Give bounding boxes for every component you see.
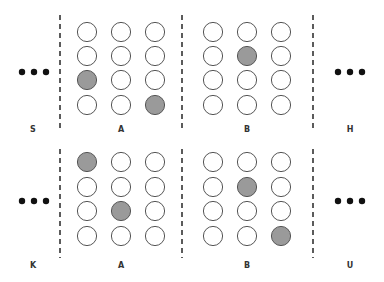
- bead-empty: [203, 70, 222, 89]
- bead-empty: [145, 201, 164, 220]
- bead-empty: [203, 152, 222, 171]
- bead-empty: [271, 46, 290, 65]
- bead-empty: [77, 177, 96, 196]
- bead-empty: [237, 22, 256, 41]
- label-group-a: A: [118, 125, 125, 134]
- bead-filled: [77, 152, 96, 171]
- bead-empty: [77, 201, 96, 220]
- bead-empty: [237, 152, 256, 171]
- right-ellipsis-icon: [335, 198, 365, 204]
- right-ellipsis-icon: [335, 69, 365, 75]
- label-left: K: [30, 261, 37, 270]
- bead-empty: [145, 22, 164, 41]
- bead-empty: [203, 177, 222, 196]
- panel-top: S A B H: [19, 15, 365, 134]
- bead-empty: [145, 177, 164, 196]
- bead-empty: [203, 201, 222, 220]
- bead-empty: [77, 226, 96, 245]
- bead-empty: [111, 70, 130, 89]
- bead-empty: [203, 22, 222, 41]
- bead-empty: [111, 46, 130, 65]
- grid-bottom-a: [77, 152, 164, 245]
- bead-empty: [271, 201, 290, 220]
- grid-top-a: [77, 22, 164, 114]
- bead-empty: [271, 152, 290, 171]
- left-ellipsis-icon: [19, 69, 49, 75]
- label-group-a: A: [118, 261, 125, 270]
- bead-empty: [237, 226, 256, 245]
- label-right: U: [347, 261, 354, 270]
- bead-empty: [111, 95, 130, 114]
- bead-empty: [111, 177, 130, 196]
- bead-filled: [111, 201, 130, 220]
- bead-filled: [145, 95, 164, 114]
- bead-filled: [237, 177, 256, 196]
- grid-bottom-b: [203, 152, 290, 245]
- bead-empty: [237, 95, 256, 114]
- bead-empty: [111, 226, 130, 245]
- bead-empty: [77, 46, 96, 65]
- bead-empty: [271, 177, 290, 196]
- label-right: H: [347, 125, 354, 134]
- label-left: S: [30, 125, 36, 134]
- bead-empty: [237, 201, 256, 220]
- bead-empty: [271, 95, 290, 114]
- bead-filled: [237, 46, 256, 65]
- bead-filled: [77, 70, 96, 89]
- bead-diagram: S A B H K A B U: [0, 0, 384, 282]
- bead-empty: [145, 152, 164, 171]
- bead-empty: [111, 152, 130, 171]
- bead-empty: [203, 46, 222, 65]
- label-group-b: B: [244, 261, 250, 270]
- bead-empty: [77, 95, 96, 114]
- bead-empty: [203, 226, 222, 245]
- label-group-b: B: [244, 125, 250, 134]
- bead-empty: [271, 70, 290, 89]
- bead-empty: [145, 46, 164, 65]
- bead-filled: [271, 226, 290, 245]
- left-ellipsis-icon: [19, 198, 49, 204]
- bead-empty: [145, 70, 164, 89]
- bead-empty: [145, 226, 164, 245]
- bead-empty: [111, 22, 130, 41]
- bead-empty: [203, 95, 222, 114]
- bead-empty: [271, 22, 290, 41]
- grid-top-b: [203, 22, 290, 114]
- panel-bottom: K A B U: [19, 149, 365, 270]
- bead-empty: [77, 22, 96, 41]
- bead-empty: [237, 70, 256, 89]
